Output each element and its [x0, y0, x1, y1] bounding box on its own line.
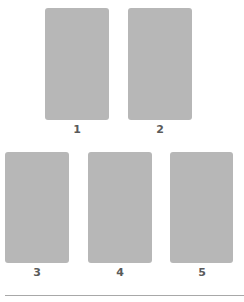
card-5[interactable]: [170, 152, 233, 263]
card-label-1: 1: [67, 124, 87, 136]
card-4[interactable]: [88, 152, 152, 263]
card-label-5: 5: [192, 267, 212, 279]
card-label-2: 2: [150, 124, 170, 136]
card-2[interactable]: [128, 8, 192, 120]
card-label-3: 3: [27, 267, 47, 279]
card-3[interactable]: [5, 152, 69, 263]
card-1[interactable]: [45, 8, 109, 120]
divider: [5, 295, 244, 296]
card-label-4: 4: [110, 267, 130, 279]
